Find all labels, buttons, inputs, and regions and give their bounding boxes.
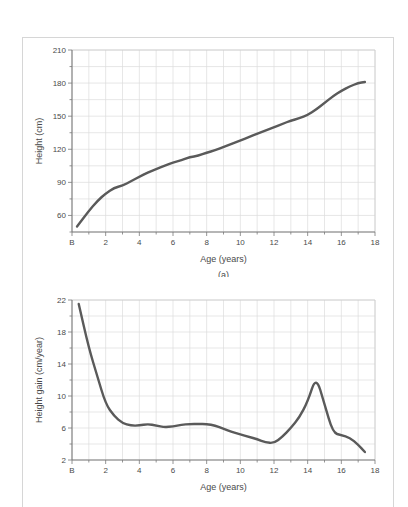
x-tick-label: 8	[204, 238, 209, 247]
height-gain-chart: B246810121416182610141822Age (years)Heig…	[0, 288, 408, 493]
x-tick-label: 16	[337, 466, 346, 475]
chart-caption: (a)	[218, 270, 229, 277]
y-axis-label: Height gain (cm/year)	[34, 337, 44, 423]
x-tick-label: 14	[303, 238, 312, 247]
y-axis-ticks: 6090120150180210	[53, 46, 72, 232]
x-axis-ticks: B24681012141618	[69, 460, 380, 475]
x-tick-label: 10	[236, 238, 245, 247]
y-tick-label: 150	[53, 112, 67, 121]
x-axis-label: Age (years)	[200, 482, 247, 492]
x-tick-label: 14	[303, 466, 312, 475]
y-tick-label: 210	[53, 46, 67, 55]
y-tick-label: 6	[62, 424, 67, 433]
y-tick-label: 120	[53, 145, 67, 154]
y-tick-label: 90	[57, 178, 66, 187]
x-tick-label: 8	[204, 466, 209, 475]
x-axis-ticks: B24681012141618	[69, 232, 380, 247]
y-tick-label: 18	[57, 328, 66, 337]
height-distance-chart: B246810121416186090120150180210Age (year…	[0, 42, 408, 277]
gridlines	[72, 50, 375, 232]
gridlines	[72, 300, 375, 460]
x-tick-label: 16	[337, 238, 346, 247]
y-tick-label: 22	[57, 296, 66, 305]
y-axis-label: Height (cm)	[34, 118, 44, 165]
data-line-height-gain	[79, 304, 365, 452]
chart-a-container: B246810121416186090120150180210Age (year…	[0, 42, 408, 277]
x-tick-label: 18	[371, 466, 380, 475]
x-tick-label: 2	[103, 238, 108, 247]
y-tick-label: 60	[57, 211, 66, 220]
x-tick-label: B	[69, 466, 74, 475]
x-tick-label: 12	[270, 466, 279, 475]
x-tick-label: 12	[270, 238, 279, 247]
x-tick-label: 4	[137, 238, 142, 247]
x-tick-label: 18	[371, 238, 380, 247]
x-tick-label: 6	[171, 466, 176, 475]
chart-b-container: B246810121416182610141822Age (years)Heig…	[0, 288, 408, 493]
y-tick-label: 14	[57, 360, 66, 369]
x-tick-label: B	[69, 238, 74, 247]
y-axis-ticks: 2610141822	[57, 296, 72, 465]
y-tick-label: 2	[62, 456, 67, 465]
x-axis-label: Age (years)	[200, 254, 247, 264]
x-tick-label: 6	[171, 238, 176, 247]
x-tick-label: 2	[103, 466, 108, 475]
x-tick-label: 10	[236, 466, 245, 475]
y-tick-label: 10	[57, 392, 66, 401]
y-tick-label: 180	[53, 79, 67, 88]
x-tick-label: 4	[137, 466, 142, 475]
data-line-height	[77, 82, 365, 226]
